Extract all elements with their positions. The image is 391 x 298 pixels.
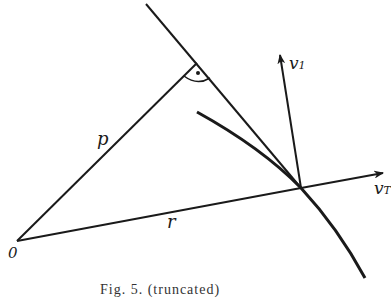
- tangent-line: [146, 4, 301, 188]
- radius-line-r: [17, 188, 301, 241]
- v1-label-sub: 1: [299, 59, 306, 72]
- velocity-arrow-vt: [301, 173, 383, 188]
- origin-label: 0: [8, 246, 18, 261]
- vt-label-base: v: [374, 178, 384, 198]
- v1-label: v1: [289, 55, 306, 72]
- trajectory-curve: [197, 112, 365, 278]
- r-label: r: [167, 213, 176, 231]
- right-angle-dot: [196, 71, 200, 75]
- vt-label-sub: T: [384, 184, 391, 197]
- v1-label-base: v: [289, 53, 299, 73]
- figure-caption: Fig. 5. (truncated): [100, 282, 220, 298]
- p-label: p: [97, 130, 109, 148]
- vt-label: vT: [374, 180, 391, 197]
